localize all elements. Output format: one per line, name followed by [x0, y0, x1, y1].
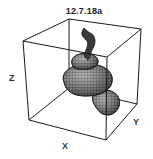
plot-figure: 12.7.18a — [0, 0, 153, 159]
y-axis-label: Y — [133, 117, 139, 127]
plot-canvas — [0, 0, 153, 159]
z-axis-label: Z — [9, 73, 15, 83]
x-axis-label: X — [62, 141, 68, 151]
helix-surface — [63, 28, 119, 115]
